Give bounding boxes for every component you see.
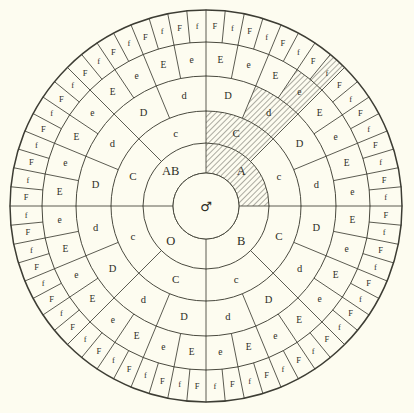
label-ring-4-e-factor-17: e [63,158,67,168]
label-ring-3-d-factor-15: d [314,179,320,190]
label-ring-5-f-factor-37: f [50,108,53,118]
label-ring-5-f-factor-27: f [42,278,45,288]
label-ring-4-e-factor-9: e [161,342,165,352]
label-ring-2-c-factor-3: c [131,230,136,242]
label-ring-3-d-factor-5: d [141,294,147,305]
label-ring-1-blood-group-3: A [237,164,246,178]
label-ring-3-d-factor-0: D [313,222,321,233]
label-ring-5-f-factor-54: F [311,56,316,66]
label-ring-5-f-factor-11: f [282,364,285,374]
label-ring-5-f-factor-58: F [358,108,363,118]
label-ring-3-d-factor-1: d [297,263,303,274]
label-ring-5-f-factor-7: f [338,322,341,332]
label-ring-5-f-factor-41: f [97,56,100,66]
label-ring-4-e-factor-20: E [110,87,116,97]
label-ring-4-e-factor-3: e [318,294,322,304]
label-ring-5-f-factor-49: f [231,23,234,33]
label-ring-3-d-factor-2: D [265,294,273,305]
label-ring-4-e-factor-21: e [135,71,139,81]
label-ring-4-e-factor-5: e [273,331,277,341]
label-ring-3-d-factor-8: D [92,179,100,190]
label-ring-5-f-factor-10: F [296,355,301,365]
label-ring-5-f-factor-26: F [49,294,54,304]
label-ring-5-f-factor-3: f [374,262,377,272]
label-ring-5-f-factor-12: F [264,370,269,380]
label-ring-4-e-factor-11: e [111,315,115,325]
label-ring-5-f-factor-23: f [84,334,87,344]
wheel-svg: BOABACcCcCcCcDdDdDdDdDdDdDdDdEeEeEeEeEeE… [0,0,414,413]
label-ring-5-f-factor-18: F [160,376,165,386]
label-ring-4-e-factor-29: e [334,132,338,142]
label-ring-5-f-factor-44: F [143,32,148,42]
label-ring-4-e-factor-0: E [349,215,355,225]
label-ring-3-d-factor-7: d [93,222,99,233]
label-ring-4-e-factor-4: E [296,315,302,325]
label-ring-4-e-factor-28: E [317,108,323,118]
label-ring-5-f-factor-24: F [70,322,75,332]
label-ring-5-f-factor-14: F [230,379,235,389]
label-ring-5-f-factor-60: F [373,140,378,150]
label-ring-5-f-factor-30: F [26,227,31,237]
label-ring-5-f-factor-53: f [297,47,300,57]
label-ring-5-f-factor-15: f [213,381,216,391]
label-ring-2-c-factor-6: C [233,127,240,139]
label-ring-2-c-factor-4: C [129,170,136,182]
label-ring-4-e-factor-16: E [57,187,63,197]
label-ring-5-f-factor-32: F [24,192,29,202]
label-ring-3-d-factor-11: d [181,90,187,101]
label-ring-4-e-factor-18: E [73,132,79,142]
label-ring-5-f-factor-36: F [41,124,46,134]
label-ring-5-f-factor-1: f [383,227,386,237]
label-ring-5-f-factor-59: f [367,124,370,134]
label-ring-5-f-factor-8: F [325,334,330,344]
label-ring-5-f-factor-31: f [25,210,28,220]
label-ring-4-e-factor-7: e [218,347,222,357]
label-ring-4-e-factor-25: e [247,60,251,70]
label-ring-5-f-factor-63: f [384,192,387,202]
label-ring-4-e-factor-26: E [272,71,278,81]
label-ring-4-e-factor-1: e [345,244,349,254]
label-ring-5-f-factor-19: f [144,370,147,380]
label-ring-5-f-factor-6: F [348,308,353,318]
label-ring-5-f-factor-40: F [83,68,88,78]
label-ring-2-c-factor-7: c [277,170,282,182]
label-ring-5-f-factor-25: f [60,308,63,318]
label-ring-2-c-factor-5: c [173,127,178,139]
label-ring-5-f-factor-56: F [337,80,342,90]
label-ring-5-f-factor-50: F [247,26,252,36]
label-ring-5-f-factor-61: f [379,157,382,167]
label-ring-5-f-factor-21: f [112,355,115,365]
label-ring-2-c-factor-0: C [275,230,282,242]
label-ring-5-f-factor-34: F [29,157,34,167]
label-ring-5-f-factor-16: F [195,381,200,391]
label-ring-5-f-factor-17: f [178,379,181,389]
label-ring-4-e-factor-15: e [58,215,62,225]
label-ring-3-d-factor-12: D [224,90,232,101]
label-ring-1-blood-group-1: O [166,234,175,248]
label-ring-4-e-factor-31: e [350,187,354,197]
label-ring-5-f-factor-5: f [359,294,362,304]
label-ring-5-f-factor-29: f [30,245,33,255]
label-ring-5-f-factor-28: F [34,262,39,272]
label-ring-2-c-factor-2: C [172,273,179,285]
label-ring-5-f-factor-46: F [177,23,182,33]
label-ring-5-f-factor-51: f [265,32,268,42]
label-ring-5-f-factor-55: f [325,68,328,78]
label-ring-4-e-factor-30: E [344,158,350,168]
label-ring-5-f-factor-57: f [349,94,352,104]
label-ring-2-c-factor-1: c [234,273,239,285]
label-ring-4-e-factor-23: e [189,55,193,65]
label-ring-4-e-factor-13: e [74,270,78,280]
label-ring-3-d-factor-9: d [110,138,116,149]
label-ring-4-e-factor-12: E [89,294,95,304]
label-ring-1-blood-group-2: AB [162,164,179,178]
label-ring-5-f-factor-43: f [128,38,131,48]
label-ring-5-f-factor-4: F [366,278,371,288]
label-ring-5-f-factor-39: f [71,80,74,90]
label-ring-3-d-factor-4: D [180,311,188,322]
label-ring-5-f-factor-13: f [248,376,251,386]
label-ring-4-e-factor-8: E [189,347,195,357]
label-ring-3-d-factor-10: D [140,107,148,118]
label-ring-5-f-factor-48: F [212,21,217,31]
label-ring-5-f-factor-2: F [378,245,383,255]
